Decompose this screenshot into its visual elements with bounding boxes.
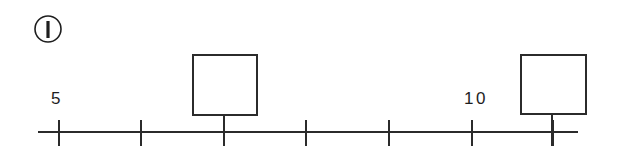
circled-one-icon [35, 16, 61, 42]
figure-canvas [0, 0, 617, 163]
marker-box-right-rect[interactable] [521, 55, 586, 114]
marker-box-left-rect[interactable] [193, 55, 257, 115]
axis-label-5: 5 [51, 90, 61, 107]
axis-label-10: 10 [464, 90, 488, 107]
number-line-figure: 5 10 [0, 0, 617, 163]
